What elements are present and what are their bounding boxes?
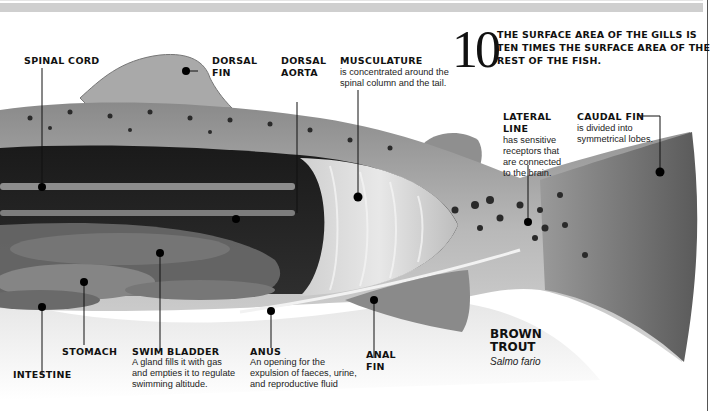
marker-anus (267, 307, 275, 315)
desc-lateral-line: has sensitive receptors that are connect… (503, 135, 561, 179)
label-lateral-line: LATERAL LINE (503, 111, 551, 135)
marker-dorsal-aorta (232, 215, 240, 223)
dorsal-fin-shape (80, 54, 232, 108)
desc-anus: An opening for the expulsion of faeces, … (250, 357, 357, 390)
marker-caudal-fin (656, 168, 665, 177)
marker-lateral-line (524, 218, 532, 226)
label-dorsal-fin: DORSAL FIN (212, 55, 257, 79)
dorsal-aorta-tube (0, 210, 295, 216)
marker-musculature (354, 193, 363, 202)
marker-spinal-cord (38, 183, 46, 191)
fact-text: THE SURFACE AREA OF THE GILLS IS TEN TIM… (497, 28, 717, 67)
desc-musculature: is concentrated around the spinal column… (340, 67, 449, 89)
label-caudal-fin: CAUDAL FIN (577, 111, 644, 123)
marker-dorsal-fin (182, 67, 190, 75)
label-musculature: MUSCULATURE (340, 55, 423, 67)
label-stomach: STOMACH (62, 346, 117, 358)
marker-anal-fin (370, 296, 378, 304)
marker-stomach (80, 278, 88, 286)
label-intestine: INTESTINE (13, 369, 71, 381)
marker-intestine (38, 303, 46, 311)
desc-caudal-fin: is divided into symmetrical lobes. (577, 123, 653, 145)
label-anal-fin: ANAL FIN (366, 349, 396, 373)
species-latin-name: Salmo fario (490, 356, 541, 367)
desc-swim-bladder: A gland fills it with gas and empties it… (132, 357, 235, 390)
label-dorsal-aorta: DORSAL AORTA (281, 55, 326, 79)
species-title: BROWN TROUT (490, 328, 550, 354)
marker-swim-bladder (156, 249, 164, 257)
fact-number: 10 (452, 26, 498, 74)
label-spinal-cord: SPINAL CORD (24, 55, 100, 67)
